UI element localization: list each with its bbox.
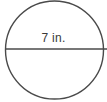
circle-outline — [6, 1, 104, 99]
circle-diagram-figure: 7 in. — [0, 0, 107, 102]
circle-diagram-svg — [0, 0, 107, 102]
diameter-measurement-label: 7 in. — [0, 31, 107, 45]
